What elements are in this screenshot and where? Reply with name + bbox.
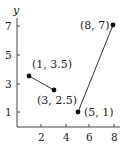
y-tick-label: 7 <box>5 20 12 32</box>
label-point-3-2.5: (3, 2.5) <box>37 94 77 107</box>
chart: y 7 5 3 1 2 4 6 8 (1, 3.5) (3, 2.5) (5, … <box>0 0 123 149</box>
point-3-2.5 <box>52 88 57 93</box>
label-point-5-1: (5, 1) <box>84 106 114 119</box>
x-tick-label: 8 <box>111 131 118 143</box>
segment-2-line <box>78 25 113 112</box>
plot-area: y 7 5 3 1 2 4 6 8 (1, 3.5) (3, 2.5) (5, … <box>0 0 123 149</box>
point-5-1 <box>76 110 81 115</box>
y-tick-label: 3 <box>5 78 12 90</box>
label-point-8-7: (8, 7) <box>80 19 110 32</box>
label-point-1-3.5: (1, 3.5) <box>32 58 72 71</box>
x-tick-label: 2 <box>38 131 45 143</box>
y-tick-label: 1 <box>5 106 12 118</box>
point-8-7 <box>111 23 116 28</box>
y-axis-label: y <box>12 4 20 17</box>
segment-1-line <box>29 76 54 90</box>
y-tick-label: 5 <box>5 49 12 61</box>
x-tick-label: 6 <box>86 131 93 143</box>
x-tick-label: 4 <box>63 131 70 143</box>
point-1-3.5 <box>27 74 32 79</box>
